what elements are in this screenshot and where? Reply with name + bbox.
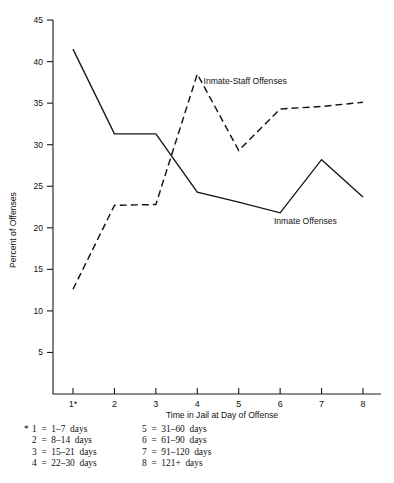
- y-tick-label: 15: [34, 264, 44, 274]
- series-label-inmate-staff-offenses: Inmate-Staff Offenses: [204, 76, 287, 86]
- footnote-asterisk: *: [24, 424, 32, 435]
- footnote-row: 3 = 15–21 days7 = 91–120 days: [24, 447, 374, 458]
- footnote-legend: *1 = 1–7 days5 = 31–60 days2 = 8–14 days…: [24, 424, 374, 470]
- footnote-row: 2 = 8–14 days6 = 61–90 days: [24, 435, 374, 446]
- y-tick-label: 10: [34, 306, 44, 316]
- y-tick-label: 35: [34, 98, 44, 108]
- footnote-asterisk: [24, 447, 32, 458]
- footnote-left-entry: 2 = 8–14 days: [32, 435, 142, 446]
- x-axis-title: Time in Jail at Day of Offense: [166, 410, 278, 420]
- y-tick-label: 20: [34, 223, 44, 233]
- footnote-row: *1 = 1–7 days5 = 31–60 days: [24, 424, 374, 435]
- x-tick-label: 4: [195, 399, 200, 409]
- x-tick-label: 2: [112, 399, 117, 409]
- y-tick-label: 25: [34, 181, 44, 191]
- footnote-row: 4 = 22–30 days8 = 121+ days: [24, 458, 374, 469]
- footnote-right-entry: 7 = 91–120 days: [142, 447, 292, 458]
- y-axis-title: Percent of Offenses: [8, 192, 18, 268]
- series-label-inmate-offenses: Inmate Offenses: [274, 216, 337, 226]
- x-tick-label: 3: [153, 399, 158, 409]
- footnote-right-entry: 8 = 121+ days: [142, 458, 292, 469]
- x-tick-label: 8: [360, 399, 365, 409]
- footnote-asterisk: [24, 458, 32, 469]
- x-tick-label: 6: [278, 399, 283, 409]
- y-tick-label: 45: [34, 15, 44, 25]
- footnote-right-entry: 5 = 31–60 days: [142, 424, 292, 435]
- footnote-right-entry: 6 = 61–90 days: [142, 435, 292, 446]
- chart-figure: 51015202530354045 1*2345678 Inmate Offen…: [0, 0, 394, 483]
- y-tick-label: 5: [38, 347, 43, 357]
- x-tick-label: 5: [236, 399, 241, 409]
- y-tick-label: 40: [34, 57, 44, 67]
- chart-annotations: Inmate OffensesInmate-Staff Offenses: [204, 76, 337, 226]
- x-tick-label: 1*: [69, 399, 78, 409]
- footnote-asterisk: [24, 435, 32, 446]
- y-axis-ticks: 51015202530354045: [34, 15, 53, 357]
- y-tick-label: 30: [34, 140, 44, 150]
- line-chart-svg: 51015202530354045 1*2345678 Inmate Offen…: [0, 0, 394, 483]
- footnote-left-entry: 3 = 15–21 days: [32, 447, 142, 458]
- footnote-left-entry: 1 = 1–7 days: [32, 424, 142, 435]
- series-line-inmate-staff-offenses: [73, 74, 363, 289]
- x-tick-label: 7: [319, 399, 324, 409]
- x-axis-ticks: 1*2345678: [69, 388, 366, 409]
- footnote-left-entry: 4 = 22–30 days: [32, 458, 142, 469]
- series-line-inmate-offenses: [73, 49, 363, 213]
